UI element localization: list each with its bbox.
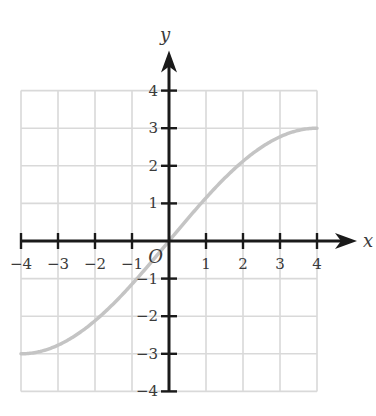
y-tick-label: 1 <box>148 194 158 212</box>
coordinate-plane: −4−3−2−112344321−1−2−3−4xyO <box>0 0 376 416</box>
x-tick-label: 4 <box>312 255 322 273</box>
x-tick-label: 1 <box>201 255 211 273</box>
axes <box>21 51 357 392</box>
x-tick-label: 2 <box>238 255 248 273</box>
x-tick-label: 3 <box>275 255 285 273</box>
x-axis-label: x <box>363 230 373 251</box>
y-tick-label: −2 <box>136 307 158 325</box>
y-tick-label: 2 <box>148 157 158 175</box>
y-tick-label: 3 <box>148 119 158 137</box>
x-tick-label: −4 <box>10 255 32 273</box>
y-tick-label: 4 <box>148 82 158 100</box>
y-tick-label: −3 <box>136 345 158 363</box>
x-tick-label: −2 <box>84 255 106 273</box>
y-axis-label: y <box>159 24 171 45</box>
y-tick-label: −1 <box>136 270 158 288</box>
y-tick-label: −4 <box>136 382 158 400</box>
x-tick-label: −3 <box>47 255 69 273</box>
origin-label: O <box>148 246 163 267</box>
